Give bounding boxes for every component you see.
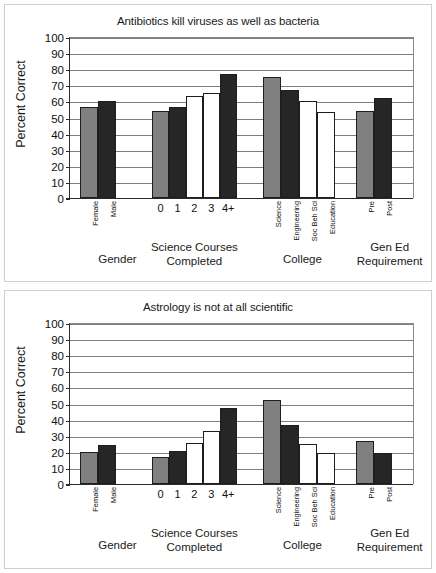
x-tick-label: 4+ <box>220 488 237 500</box>
plot-area-bottom: 1009080706050403020100 FemaleMale01234+S… <box>69 323 414 484</box>
bar <box>356 111 374 198</box>
group-caption: Science Courses Completed <box>129 241 259 268</box>
y-tick-label: 70 <box>51 366 64 378</box>
bar <box>299 101 317 198</box>
bar <box>186 443 203 484</box>
bar <box>220 408 237 484</box>
bar <box>80 452 98 484</box>
x-tick-label: 2 <box>186 488 203 500</box>
plot-area-top: 1009080706050403020100 FemaleMale01234+S… <box>69 37 414 198</box>
y-tick-label: 80 <box>51 350 64 362</box>
x-tick-label: 1 <box>169 202 186 214</box>
y-tick-label: 90 <box>51 334 64 346</box>
bar <box>263 400 281 484</box>
bar <box>281 425 299 484</box>
bar <box>186 96 203 198</box>
bar <box>169 107 186 198</box>
y-tick-label: 20 <box>51 447 64 459</box>
bar <box>317 112 335 198</box>
x-axis-line-bottom <box>66 484 413 485</box>
x-tick-label: Soc Beh Sci <box>310 487 319 527</box>
y-tick-label: 40 <box>51 415 64 427</box>
x-tick-label: 1 <box>169 488 186 500</box>
y-tick-label: 10 <box>51 463 64 475</box>
x-tick-label: Post <box>385 201 394 216</box>
x-tick-label: Education <box>328 201 337 234</box>
chart-panel-bottom: Astrology is not at all scientific Perce… <box>4 290 432 569</box>
y-tick-mark <box>66 485 70 486</box>
bar <box>80 107 98 198</box>
bar-series-top: FemaleMale01234+ScienceEngineeringSoc Be… <box>70 38 413 198</box>
x-tick-label: Female <box>91 201 100 226</box>
bar <box>281 90 299 198</box>
bar <box>299 444 317 484</box>
bar-series-bottom: FemaleMale01234+ScienceEngineeringSoc Be… <box>70 324 413 484</box>
x-tick-label: Education <box>328 487 337 520</box>
x-tick-label: 4+ <box>220 202 237 214</box>
bar <box>263 77 281 198</box>
x-tick-label: Science <box>274 201 283 227</box>
bar <box>203 93 220 198</box>
bar <box>152 111 169 198</box>
y-tick-label: 50 <box>51 113 64 125</box>
group-caption: Science Courses Completed <box>129 527 259 554</box>
bar <box>317 453 335 484</box>
y-tick-label: 30 <box>51 431 64 443</box>
y-tick-mark <box>66 199 70 200</box>
y-tick-label: 60 <box>51 96 64 108</box>
y-tick-label: 60 <box>51 382 64 394</box>
x-tick-label: 3 <box>203 202 220 214</box>
chart-panel-top: Antibiotics kill viruses as well as bact… <box>4 4 432 282</box>
x-tick-label: Engineering <box>292 487 301 526</box>
x-tick-label: Pre <box>367 201 376 213</box>
y-tick-label: 90 <box>51 48 64 60</box>
y-axis-label-bottom: Percent Correct <box>14 330 28 450</box>
y-tick-label: 0 <box>58 193 64 205</box>
x-tick-label: 0 <box>152 488 169 500</box>
x-axis-line-top <box>66 198 413 199</box>
y-tick-label: 80 <box>51 64 64 76</box>
bar <box>98 445 116 484</box>
figure-page: Antibiotics kill viruses as well as bact… <box>0 0 436 573</box>
x-tick-label: Engineering <box>292 201 301 240</box>
x-tick-label: 0 <box>152 202 169 214</box>
y-tick-label: 100 <box>45 32 64 44</box>
y-tick-label: 100 <box>45 318 64 330</box>
chart-title-top: Antibiotics kill viruses as well as bact… <box>5 15 431 27</box>
bar <box>98 101 116 198</box>
y-axis-label-top: Percent Correct <box>14 44 28 164</box>
y-tick-label: 0 <box>58 479 64 491</box>
x-tick-label: Female <box>91 487 100 512</box>
x-tick-label: Soc Beh Sci <box>310 201 319 241</box>
x-tick-label: 3 <box>203 488 220 500</box>
bar <box>152 457 169 484</box>
x-tick-label: Post <box>385 487 394 502</box>
bar <box>374 453 392 484</box>
x-tick-label: Science <box>274 487 283 513</box>
group-caption: Gen Ed Requirement <box>335 241 436 268</box>
x-tick-label: Male <box>109 487 118 503</box>
x-tick-label: Male <box>109 201 118 217</box>
x-tick-label: 2 <box>186 202 203 214</box>
y-tick-label: 10 <box>51 177 64 189</box>
bar <box>220 74 237 198</box>
y-tick-label: 70 <box>51 80 64 92</box>
y-tick-label: 40 <box>51 129 64 141</box>
y-tick-label: 30 <box>51 145 64 157</box>
bar <box>374 98 392 198</box>
bar <box>203 431 220 484</box>
x-tick-label: Pre <box>367 487 376 499</box>
y-tick-label: 50 <box>51 399 64 411</box>
chart-title-bottom: Astrology is not at all scientific <box>5 301 431 313</box>
y-tick-label: 20 <box>51 161 64 173</box>
group-caption: Gen Ed Requirement <box>335 527 436 554</box>
bar <box>356 441 374 484</box>
bar <box>169 451 186 484</box>
